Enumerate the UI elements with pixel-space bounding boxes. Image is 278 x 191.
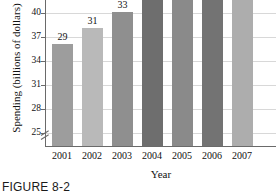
figure-caption: FIGURE 8-2	[2, 180, 70, 191]
x-axis-title: Year	[46, 168, 276, 180]
bar-2004[interactable]: 35	[142, 0, 163, 146]
x-tick-label-2005: 2005	[166, 150, 198, 162]
x-tick-label-2004: 2004	[136, 150, 168, 162]
y-tick-label: 37	[16, 32, 41, 41]
y-tick-label: 31	[16, 80, 41, 89]
bar-series: 29 31 33 35 37 39 41	[46, 0, 276, 146]
y-tick-label: 28	[16, 104, 41, 113]
x-tick-label-2006: 2006	[196, 150, 228, 162]
bar-2007[interactable]: 41	[232, 0, 253, 146]
x-tick-label-2002: 2002	[76, 150, 108, 162]
y-tick-label: 34	[16, 56, 41, 65]
y-tick-label: 25	[16, 128, 41, 137]
bar-value-label: 31	[88, 15, 98, 26]
x-tick-label-2001: 2001	[46, 150, 78, 162]
bar-2002[interactable]: 31	[82, 28, 103, 146]
bar-2006[interactable]: 39	[202, 0, 223, 146]
bar-value-label: 33	[118, 0, 128, 10]
x-axis-line	[45, 146, 276, 147]
x-axis-tick-labels: 2001 2002 2003 2004 2005 2006 2007	[46, 150, 276, 164]
y-tick-label: 40	[16, 8, 41, 17]
y-axis-tick-labels: 43 40 37 34 31 28 25	[16, 0, 41, 150]
bar-2005[interactable]: 37	[172, 0, 193, 146]
bar-value-label: 29	[58, 31, 68, 42]
figure-container: Spending (billions of dollars) 43 40 37 …	[0, 0, 278, 191]
x-tick-label-2003: 2003	[106, 150, 138, 162]
x-tick-label-2007: 2007	[226, 150, 258, 162]
bar-2001[interactable]: 29	[52, 44, 73, 146]
bar-2003[interactable]: 33	[112, 12, 133, 146]
